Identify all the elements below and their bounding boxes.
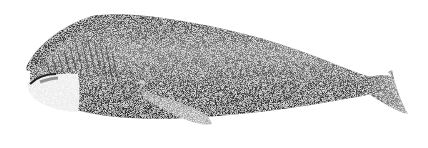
whale-illustration — [0, 0, 428, 148]
whale-body — [30, 14, 390, 119]
whale-drawing — [0, 0, 428, 148]
whale-eye — [139, 80, 145, 83]
